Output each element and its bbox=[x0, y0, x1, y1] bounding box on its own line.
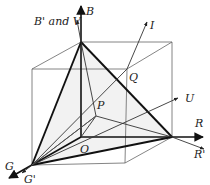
label-b: B bbox=[85, 5, 94, 18]
label-b-prime-v: B' and V bbox=[33, 15, 82, 28]
label-r-prime: R' bbox=[193, 148, 205, 161]
label-i: I bbox=[149, 19, 155, 32]
label-r: R bbox=[194, 117, 203, 130]
label-p: P bbox=[96, 99, 105, 112]
label-o: O bbox=[80, 143, 89, 156]
label-u: U bbox=[185, 92, 195, 105]
label-g-prime: G' bbox=[24, 173, 36, 185]
label-g: G bbox=[5, 160, 14, 173]
label-q: Q bbox=[129, 71, 138, 84]
rgb-cube-diagram: B B' and V I Q P U O R R' G G' bbox=[0, 0, 210, 185]
